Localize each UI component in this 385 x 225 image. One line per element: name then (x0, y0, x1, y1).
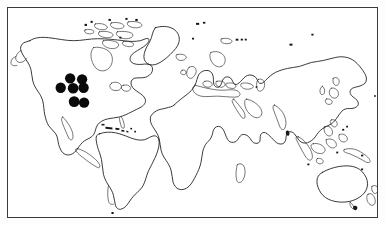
landmass-svalbard (196, 22, 314, 46)
landmass-eurasia-africa (150, 57, 366, 190)
landmass-scandinavia (210, 52, 225, 67)
landmass-british-isles (181, 66, 197, 78)
map-frame-border (7, 7, 378, 218)
landmass-south-america (96, 132, 159, 209)
record-dot (69, 96, 80, 107)
landmass-madagascar (236, 164, 245, 183)
figure-root: World map with occurrence records (0, 0, 385, 225)
landmass-southeast-asia-islands (296, 120, 348, 166)
record-dot (79, 97, 89, 107)
landmass-new-guinea (344, 149, 371, 163)
world-map-svg (8, 8, 377, 217)
landmass-japan (325, 78, 339, 105)
record-dot (65, 73, 75, 83)
landmass-arctic-islands (85, 18, 142, 49)
landmass-australia (317, 166, 368, 209)
record-dot (78, 83, 88, 93)
record-dot (56, 83, 66, 93)
landmass-greenland (144, 26, 179, 65)
landmass-tasmania (353, 206, 357, 210)
record-dot (68, 83, 79, 94)
landmass-new-zealand (361, 168, 377, 205)
figure-caption (0, 0, 1, 1)
landmass-iceland (176, 54, 186, 60)
landmass-north-america (11, 37, 153, 155)
record-dot-cluster (56, 73, 90, 108)
figure-title: World map with occurrence records (0, 0, 1, 1)
landmass-central-america-caribbean (75, 124, 136, 214)
ocean-islets (192, 38, 376, 97)
